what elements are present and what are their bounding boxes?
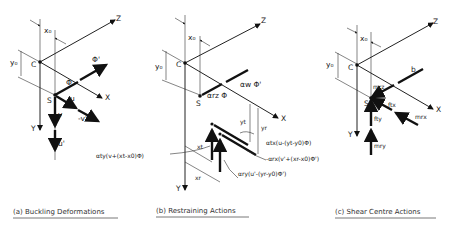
panel-b-restraining-actions: x₀ y₀ Z X Y C S αrz Φ αw Φ' yt yr xt <box>96 15 319 193</box>
centroid-point <box>183 61 187 65</box>
shear-centre-label: S <box>196 99 201 108</box>
z-axis-label: Z <box>261 16 266 25</box>
captions: (a) Buckling Deformations (b) Restrainin… <box>13 207 436 218</box>
x-axis <box>185 63 278 118</box>
y0-ext-line-c <box>162 50 185 63</box>
y0-label: y₀ <box>326 60 333 69</box>
y-axis-label: Y <box>30 124 36 133</box>
mry-label: mry <box>374 142 386 150</box>
centroid-point <box>355 63 359 67</box>
b-label: b <box>411 65 416 74</box>
x0-dim-arrow-left <box>30 20 40 26</box>
phi-label: Φ <box>66 78 72 87</box>
x0-dim-arrow-right <box>371 42 381 47</box>
x0-dim-arrow-right <box>55 38 66 44</box>
x0-dim-arrow-right <box>200 40 210 46</box>
x0-dim-arrow-left <box>175 18 185 24</box>
centroid-label: C <box>176 60 181 69</box>
phi-prime-label: Φ' <box>92 55 100 64</box>
caption-a: (a) Buckling Deformations <box>13 208 105 216</box>
y0-ext-line-s <box>18 77 55 95</box>
alpha-rz-phi-label: αrz Φ <box>207 91 227 100</box>
centroid-point <box>38 60 42 64</box>
y0-label: y₀ <box>10 58 17 67</box>
z-axis <box>185 24 260 63</box>
alpha-ry-leader <box>224 160 238 178</box>
diagram-canvas: x₀ y₀ Z X Y C S Φ Φ' u -v' v u' <box>0 0 451 233</box>
alpha-ty-leader <box>170 146 210 154</box>
shear-centre-label: S <box>364 99 369 108</box>
alpha-tx-leader <box>240 132 254 134</box>
x-axis-label: X <box>436 105 441 114</box>
shear-centre-label: S <box>47 96 52 105</box>
alpha-w-phi-prime-label: αw Φ' <box>240 80 261 89</box>
u-label: u <box>70 94 75 103</box>
phi-prime-vector <box>80 65 106 80</box>
caption-c: (c) Shear Centre Actions <box>335 208 421 216</box>
shear-centre-point <box>198 94 202 98</box>
centroid-label: C <box>31 60 36 69</box>
xr-dim-line <box>185 162 220 182</box>
x-axis-label: X <box>281 114 286 123</box>
caption-b: (b) Restraining Actions <box>156 207 236 215</box>
z-axis-label: Z <box>116 14 121 23</box>
mrx-label: mrx <box>415 113 427 120</box>
fty-label: fty <box>374 115 382 123</box>
panel-a-buckling-deformations: x₀ y₀ Z X Y C S Φ Φ' u -v' v u' <box>10 14 121 160</box>
panel-c-shear-centre-actions: x₀ y₀ Z X Y C S mrz b ftx mrx fty mry <box>326 17 441 155</box>
yt-label: yt <box>240 118 247 126</box>
z-axis <box>357 23 433 65</box>
x0-label: x₀ <box>188 33 195 42</box>
x-axis-label: X <box>105 93 110 102</box>
yr-label: yr <box>261 124 268 132</box>
mrz-label: mrz <box>373 83 384 90</box>
centroid-label: C <box>348 63 353 72</box>
y0-ext-line-s <box>335 78 371 98</box>
v-label: v <box>58 110 63 119</box>
alpha-ty-label: αty(v+(xt-x0)Φ) <box>96 152 144 160</box>
x0-label: x₀ <box>360 34 367 43</box>
alpha-rx-vector <box>222 135 256 155</box>
alpha-rx-label: -αrx(v'+(xr-x0)Φ') <box>266 155 319 162</box>
rotational-restraint-point <box>218 132 221 135</box>
translational-restraint-point <box>210 122 213 125</box>
y-axis-label: Y <box>347 130 353 139</box>
xr-label: xr <box>195 174 202 181</box>
neg-v-prime-label: -v' <box>78 114 87 123</box>
z-axis-label: Z <box>433 17 438 26</box>
y-axis-label: Y <box>175 184 181 193</box>
ftx-label: ftx <box>388 101 396 108</box>
x0-dim-arrow-left <box>347 28 357 33</box>
alpha-ry-label: αry(u'-(yr-y0)Φ') <box>238 170 286 178</box>
alpha-tx-label: αtx(u-(yt-y0)Φ) <box>266 139 311 147</box>
u-prime-label: u' <box>58 139 65 148</box>
x0-label: x₀ <box>44 26 51 35</box>
y0-ext-line-s <box>162 80 200 95</box>
y0-label: y₀ <box>155 62 162 71</box>
